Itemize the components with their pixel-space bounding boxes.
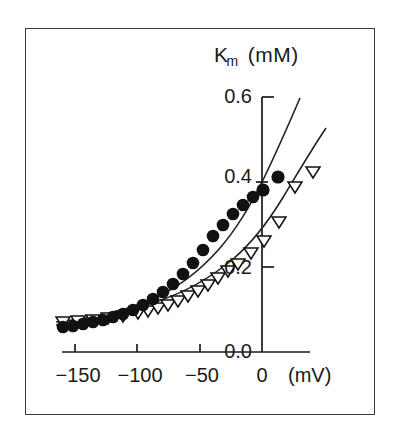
marker-group-open-triangles [56,167,320,328]
data-point-circle [271,170,284,183]
fit-curve-filled-circles [56,98,300,325]
x-axis-ticks [75,344,200,352]
data-point-circle [177,268,190,281]
data-point-triangle [288,182,302,193]
data-point-circle [167,278,180,291]
y-axis-title-subscript: m [227,53,239,69]
data-point-circle [197,244,210,257]
y-axis-title-unit: (mM) [248,43,299,66]
data-point-circle [227,208,240,221]
data-point-triangle [257,236,271,247]
data-series-layer [56,98,326,333]
x-tick-label--50: −50 [174,365,230,385]
y-tick-label-0-6: 0.6 [196,86,252,106]
data-point-triangle [306,167,320,178]
data-point-circle [256,183,269,196]
x-tick-label-0: 0 [246,365,278,385]
y-tick-label-0-0: 0.0 [196,341,252,361]
y-tick-label-0-2: 0.2 [196,257,252,277]
x-tick-label--100: −100 [104,365,176,385]
data-point-circle [207,230,220,243]
data-point-circle [157,286,170,299]
figure-container: Km(mM) 0.6 0.4 0.2 0.0 −150 −100 −50 0 (… [0,0,398,440]
axes-group [62,97,310,352]
data-point-circle [237,199,250,212]
y-tick-label-0-4: 0.4 [196,166,252,186]
data-point-circle [217,219,230,232]
data-point-triangle [272,217,286,228]
y-axis-title: Km(mM) [214,44,299,68]
x-axis-unit-label: (mV) [288,365,364,385]
